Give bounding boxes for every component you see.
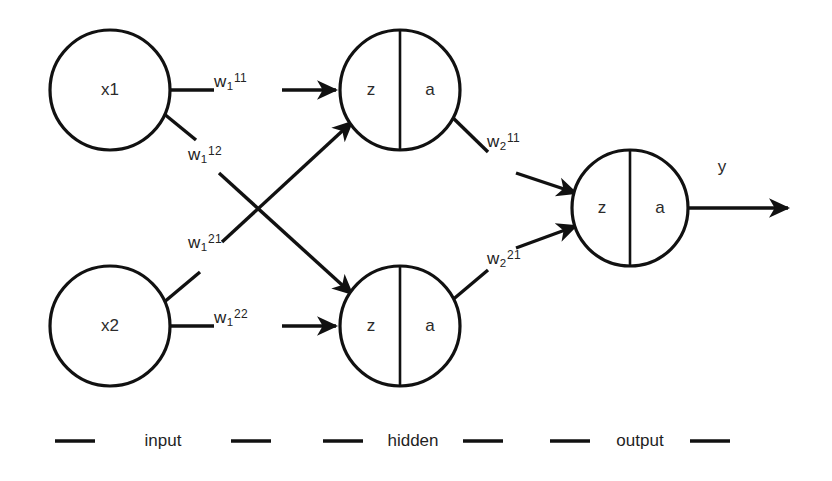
node-output-1-a-label: a bbox=[655, 198, 665, 217]
node-output-1-z-label: z bbox=[598, 198, 607, 217]
node-x1-label: x1 bbox=[101, 80, 119, 99]
weight-label-w1-12: w112 bbox=[188, 145, 222, 166]
weight-label-w1-22: w122 bbox=[214, 308, 248, 329]
legend-item-output: output bbox=[550, 431, 730, 450]
node-hidden-2-z-label: z bbox=[367, 316, 376, 335]
node-x1: x1 bbox=[50, 30, 170, 150]
weight-label-w1-11: w111 bbox=[214, 72, 247, 93]
legend: input hidden output bbox=[55, 431, 730, 450]
weight-sub: 1 bbox=[201, 241, 208, 253]
node-hidden-2: z a bbox=[340, 266, 460, 386]
weight-label-w2-11: w211 bbox=[487, 132, 520, 153]
output-signal-label: y bbox=[718, 157, 727, 176]
edge-x1-h2 bbox=[163, 113, 352, 294]
weight-sup: 11 bbox=[507, 131, 520, 145]
node-hidden-2-a-label: a bbox=[425, 316, 435, 335]
weight-sup: 12 bbox=[208, 144, 222, 158]
weight-base: w bbox=[188, 233, 200, 252]
weight-label-w1-21: w121 bbox=[188, 233, 222, 254]
weight-sub: 2 bbox=[500, 140, 507, 152]
weight-sub: 1 bbox=[201, 153, 208, 165]
node-x2-label: x2 bbox=[101, 316, 119, 335]
legend-label-hidden: hidden bbox=[387, 431, 438, 450]
weight-sub: 1 bbox=[227, 80, 234, 92]
weight-sub: 1 bbox=[227, 316, 234, 328]
weight-sup: 11 bbox=[234, 71, 247, 85]
weight-sub: 2 bbox=[500, 257, 507, 269]
weight-sup: 21 bbox=[208, 232, 222, 246]
diagram-canvas: x1 x2 z a z a z a y bbox=[0, 0, 832, 481]
weight-sup: 22 bbox=[234, 307, 248, 321]
edge-h1-o1 bbox=[450, 115, 576, 193]
legend-label-output: output bbox=[616, 431, 664, 450]
legend-item-hidden: hidden bbox=[323, 431, 503, 450]
weight-base: w bbox=[487, 132, 499, 151]
weight-label-w2-21: w221 bbox=[487, 249, 521, 270]
weight-sup: 21 bbox=[507, 248, 521, 262]
neural-network-diagram: x1 x2 z a z a z a y bbox=[0, 0, 832, 481]
node-output-1: z a bbox=[572, 150, 688, 266]
node-hidden-1: z a bbox=[340, 30, 460, 150]
weight-base: w bbox=[214, 308, 226, 327]
legend-label-input: input bbox=[145, 431, 182, 450]
weight-base: w bbox=[214, 72, 226, 91]
weight-base: w bbox=[188, 145, 200, 164]
node-hidden-1-z-label: z bbox=[367, 80, 376, 99]
weight-base: w bbox=[487, 249, 499, 268]
legend-item-input: input bbox=[55, 431, 271, 450]
node-hidden-1-a-label: a bbox=[425, 80, 435, 99]
node-x2: x2 bbox=[50, 266, 170, 386]
